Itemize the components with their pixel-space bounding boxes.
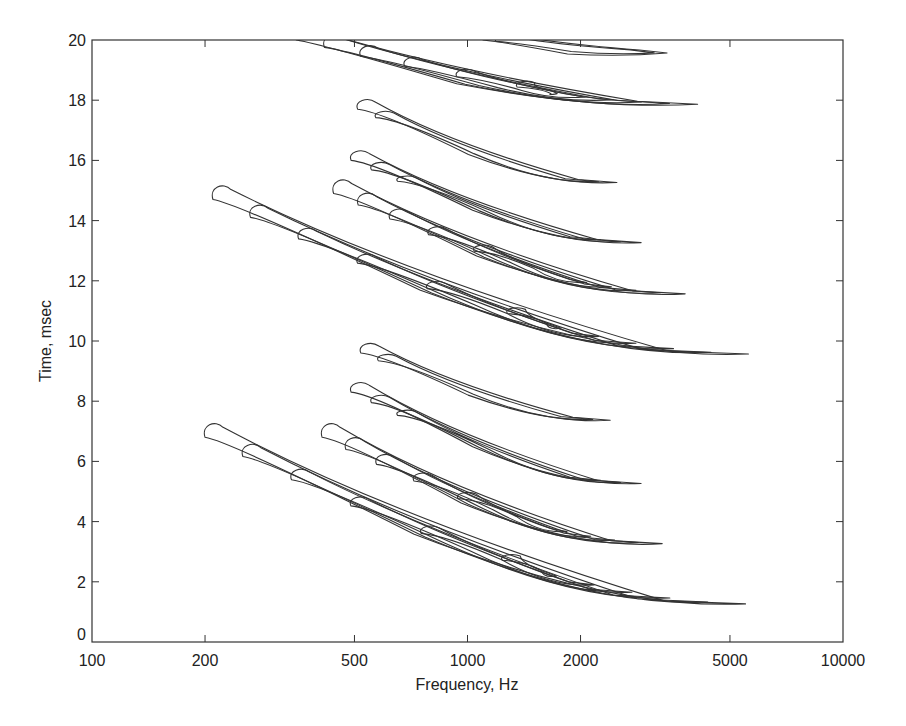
contour-level xyxy=(321,424,662,545)
y-tick-label: 0 xyxy=(77,626,86,643)
x-axis-label: Frequency, Hz xyxy=(416,676,519,693)
x-tick-label: 5000 xyxy=(712,652,748,669)
contour-chart: 10020050010002000500010000 0246810121416… xyxy=(0,0,906,726)
contour-level xyxy=(357,100,617,183)
contour-level xyxy=(333,180,685,295)
contour-level xyxy=(350,151,641,243)
y-tick-label: 12 xyxy=(68,273,86,290)
contour-level xyxy=(350,497,632,592)
y-tick-label: 16 xyxy=(68,152,86,169)
contour-band-10 xyxy=(482,30,667,55)
contour-level xyxy=(242,444,708,602)
contour-level xyxy=(371,395,621,482)
contour-band-9 xyxy=(296,26,698,105)
contour-level xyxy=(375,111,599,181)
y-axis-ticks: 02468101214161820 xyxy=(68,32,843,643)
contour-level xyxy=(250,205,711,352)
y-tick-label: 14 xyxy=(68,213,86,230)
x-tick-label: 200 xyxy=(192,652,219,669)
contour-level xyxy=(397,410,601,480)
contour-level xyxy=(324,35,670,104)
x-tick-label: 100 xyxy=(79,652,106,669)
x-tick-label: 10000 xyxy=(821,652,866,669)
contour-level xyxy=(371,163,621,242)
plot-frame xyxy=(92,40,843,642)
contour-band-7 xyxy=(350,151,641,243)
y-tick-label: 2 xyxy=(77,574,86,591)
x-tick-label: 500 xyxy=(341,652,368,669)
y-tick-label: 20 xyxy=(68,32,86,49)
x-tick-label: 1000 xyxy=(450,652,486,669)
contour-lines xyxy=(204,26,748,604)
y-tick-label: 8 xyxy=(77,393,86,410)
contour-level xyxy=(291,469,670,598)
y-tick-label: 18 xyxy=(68,92,86,109)
x-tick-label: 2000 xyxy=(563,652,599,669)
contour-band-2 xyxy=(321,424,662,545)
y-tick-label: 10 xyxy=(68,333,86,350)
contour-band-1 xyxy=(204,424,745,605)
contour-level xyxy=(357,254,636,343)
y-tick-label: 6 xyxy=(77,453,86,470)
contour-level xyxy=(204,424,745,605)
contour-band-8 xyxy=(357,100,617,183)
contour-level xyxy=(413,473,591,536)
contour-band-6 xyxy=(333,180,685,295)
y-axis-label: Time, msec xyxy=(37,300,54,382)
y-tick-label: 4 xyxy=(77,514,86,531)
contour-level xyxy=(296,26,698,105)
